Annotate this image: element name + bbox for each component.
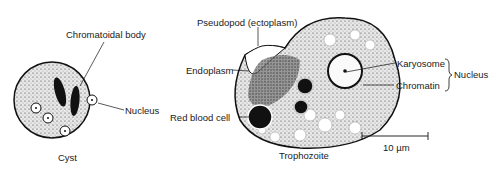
cyst-caption: Cyst	[58, 153, 77, 163]
red-blood-cell-label: Red blood cell	[170, 113, 230, 123]
chromatoidal-body-label: Chromatoidal body	[66, 30, 146, 40]
cyst-nucleus-label: Nucleus	[125, 106, 159, 116]
trophozoite-drawing	[235, 18, 400, 148]
scale-bar-label: 10 µm	[383, 143, 410, 153]
cyst-drawing	[14, 62, 97, 138]
karyosome-label: Karyosome	[397, 59, 445, 69]
trophozoite-caption: Trophozoite	[279, 151, 329, 161]
endoplasm-label: Endoplasm	[186, 66, 234, 76]
nucleus-group-label: Nucleus	[454, 70, 488, 80]
chromatin-label: Chromatin	[396, 81, 440, 91]
pseudopod-label: Pseudopod (ectoplasm)	[197, 18, 297, 28]
